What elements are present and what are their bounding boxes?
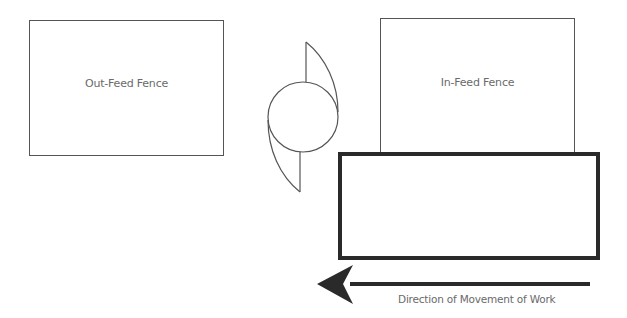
direction-label: Direction of Movement of Work	[398, 293, 555, 305]
workpiece	[338, 152, 600, 260]
cutter-head-icon	[268, 42, 338, 192]
